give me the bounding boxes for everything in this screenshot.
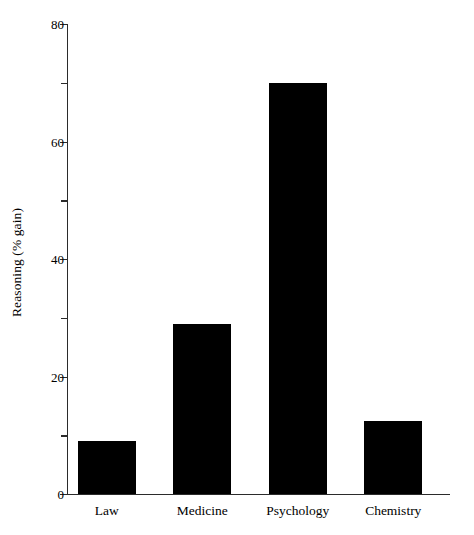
bar[interactable] bbox=[173, 324, 231, 494]
y-tick-minor bbox=[61, 83, 68, 84]
bar[interactable] bbox=[364, 421, 422, 494]
x-axis-spine bbox=[67, 494, 450, 495]
plot-area: 020406080 LawMedicinePsychologyChemistry bbox=[68, 24, 450, 494]
y-tick-minor bbox=[61, 200, 68, 201]
x-tick-label: Psychology bbox=[266, 504, 329, 518]
y-tick-label: 40 bbox=[51, 253, 64, 266]
y-tick-label: 0 bbox=[58, 488, 65, 501]
y-tick-label: 80 bbox=[51, 18, 64, 31]
y-tick-minor bbox=[61, 318, 68, 319]
y-tick-label: 60 bbox=[51, 135, 64, 148]
y-axis-label: Reasoning (% gain) bbox=[0, 0, 34, 535]
x-tick-label: Medicine bbox=[177, 504, 228, 518]
y-axis-label-text: Reasoning (% gain) bbox=[9, 208, 25, 327]
bar[interactable] bbox=[269, 83, 327, 494]
x-tick-label: Law bbox=[95, 504, 119, 518]
bar-chart-figure: Reasoning (% gain) 020406080 LawMedicine… bbox=[0, 0, 474, 535]
x-tick-label: Chemistry bbox=[365, 504, 421, 518]
y-tick-minor bbox=[61, 435, 68, 436]
bar[interactable] bbox=[78, 441, 136, 494]
y-tick-label: 20 bbox=[51, 370, 64, 383]
